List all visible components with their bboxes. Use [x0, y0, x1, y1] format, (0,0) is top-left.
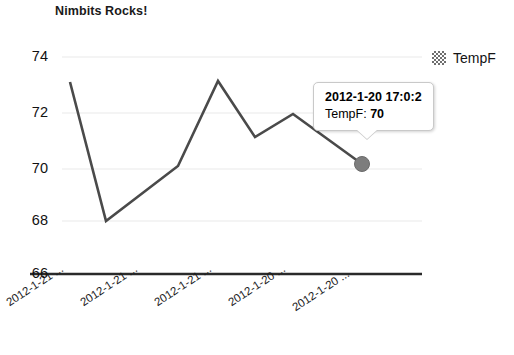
tooltip-value-row: TempF: 70: [325, 106, 422, 123]
tooltip-value: 70: [370, 107, 384, 121]
chart-legend[interactable]: TempF: [432, 50, 496, 66]
y-tick-68: 68: [2, 212, 48, 228]
tooltip-timestamp: 2012-1-20 17:0:2: [325, 89, 422, 106]
legend-label-tempf: TempF: [453, 50, 496, 66]
y-tick-72: 72: [2, 104, 48, 120]
chart-container: Nimbits Rocks! 74 72 70 68 66 2012-1-21 …: [0, 0, 514, 355]
data-point-tooltip: 2012-1-20 17:0:2 TempF: 70: [313, 82, 434, 131]
tooltip-pointer: [356, 129, 378, 139]
y-tick-70: 70: [2, 160, 48, 176]
legend-swatch-tempf: [432, 51, 446, 65]
y-tick-74: 74: [2, 48, 48, 64]
tooltip-series-label: TempF:: [325, 107, 367, 121]
data-point-marker: [355, 157, 370, 172]
